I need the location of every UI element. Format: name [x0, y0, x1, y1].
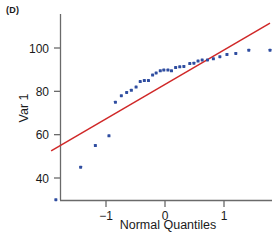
x-axis-title: Normal Quantiles — [120, 218, 217, 232]
data-point — [201, 58, 204, 61]
data-point — [225, 53, 228, 56]
x-tick-label--1: −1 — [99, 209, 113, 223]
normal-reference-line — [51, 23, 270, 151]
data-point — [182, 65, 185, 68]
data-point — [170, 69, 173, 72]
plot-area: 406080100 Var 1 −101 Normal Quantiles — [0, 0, 276, 234]
y-tick-label-100: 100 — [29, 42, 49, 56]
x-tick-label-1: 1 — [221, 209, 228, 223]
data-point — [114, 101, 117, 104]
y-tick-label-60: 60 — [36, 128, 50, 142]
data-point — [212, 57, 215, 60]
scatter-points — [54, 49, 271, 202]
y-tick-label-40: 40 — [36, 172, 50, 186]
data-point — [94, 144, 97, 147]
y-tick-marks — [54, 48, 61, 178]
data-point — [247, 49, 250, 52]
y-tick-label-80: 80 — [36, 85, 50, 99]
qq-plot-figure: (D) 406080100 Var 1 −101 Normal Quantile… — [0, 0, 276, 234]
data-point — [269, 49, 272, 52]
data-point — [166, 69, 169, 72]
data-point — [155, 71, 158, 74]
y-tick-labels: 406080100 — [29, 42, 49, 186]
data-point — [79, 166, 82, 169]
data-point — [178, 65, 181, 68]
data-point — [162, 69, 165, 72]
data-point — [234, 52, 237, 55]
data-point — [107, 134, 110, 137]
data-point — [159, 69, 162, 72]
data-point — [125, 91, 128, 94]
data-point — [218, 55, 221, 58]
data-point — [130, 89, 133, 92]
data-point — [174, 66, 177, 69]
data-point — [120, 94, 123, 97]
data-point — [147, 79, 150, 82]
data-point — [151, 74, 154, 77]
data-point — [135, 86, 138, 89]
data-point — [197, 60, 200, 63]
data-point — [139, 80, 142, 83]
data-point — [54, 198, 57, 201]
y-axis-title: Var 1 — [17, 93, 31, 122]
data-point — [206, 58, 209, 61]
data-point — [143, 79, 146, 82]
data-point — [188, 62, 191, 65]
data-point — [192, 62, 195, 65]
x-tick-marks — [106, 201, 224, 208]
x-axis: −101 Normal Quantiles — [60, 201, 272, 233]
y-axis: 406080100 Var 1 — [17, 14, 61, 200]
